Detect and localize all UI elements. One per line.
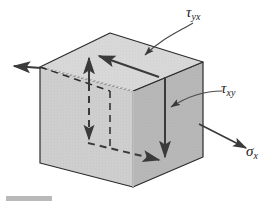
label-tau-yx-subscript: yx (191, 11, 200, 22)
figure-container: τyx τxy σx (0, 0, 278, 208)
sigma-x-right-arrow (199, 124, 246, 148)
label-sigma-x: σx (246, 143, 258, 161)
caption-rule (6, 196, 52, 201)
label-tau-xy-subscript: xy (226, 87, 235, 98)
label-sigma-x-subscript: x (253, 150, 258, 161)
stress-cube-figure (0, 0, 278, 208)
label-tau-yx: τyx (186, 4, 200, 22)
label-tau-xy: τxy (221, 80, 235, 98)
sigma-x-left-arrow (14, 66, 41, 68)
